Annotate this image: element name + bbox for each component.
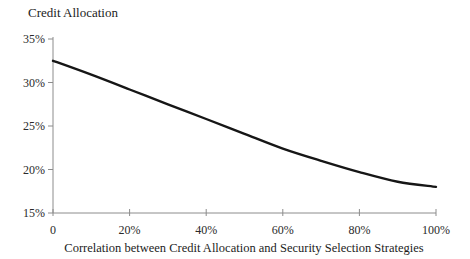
x-tick-label: 60% [272, 223, 294, 237]
credit-allocation-line-chart: Credit Allocation 15%20%25%30%35%020%40%… [0, 0, 470, 259]
y-tick-label: 30% [23, 76, 45, 90]
x-tick-label: 0 [50, 223, 56, 237]
x-tick-label: 40% [195, 223, 217, 237]
axis-ticks [48, 39, 436, 216]
y-tick-label: 15% [23, 206, 45, 220]
y-tick-label: 35% [23, 32, 45, 46]
axis-tick-labels: 15%20%25%30%35%020%40%60%80%100% [23, 32, 450, 237]
credit-allocation-curve [53, 61, 436, 187]
chart-title: Credit Allocation [28, 5, 118, 20]
credit-allocation-figure: Credit Allocation 15%20%25%30%35%020%40%… [0, 0, 470, 259]
y-tick-label: 20% [23, 163, 45, 177]
x-tick-label: 100% [422, 223, 450, 237]
x-tick-label: 20% [119, 223, 141, 237]
x-tick-label: 80% [348, 223, 370, 237]
y-tick-label: 25% [23, 119, 45, 133]
axes [53, 37, 436, 213]
x-axis-title: Correlation between Credit Allocation an… [64, 241, 423, 255]
